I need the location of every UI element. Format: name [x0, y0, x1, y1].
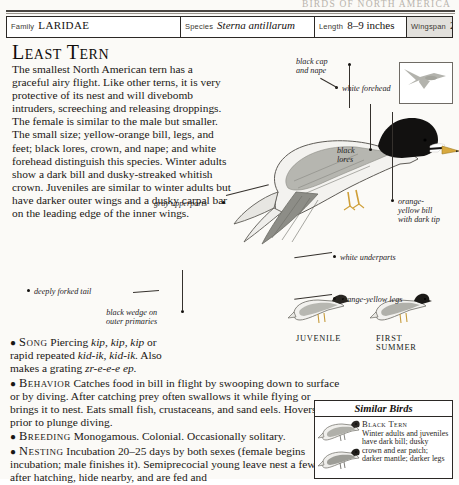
similar-bird-name: Black Tern [362, 419, 407, 429]
bullet-head-behavior: Behavior [19, 376, 71, 390]
header-rule-thin [6, 13, 455, 14]
callout-deeply-forked-tail: deeply forked tail [34, 287, 91, 296]
species-value: Sterna antillarum [217, 19, 295, 31]
bullet-body-breeding: Monogamous. Colonial. Occasionally solit… [74, 430, 286, 442]
info-cell-wingspan: Wingspan 20 inches [407, 17, 452, 37]
similar-bird-description: Winter adults and juveniles have dark bi… [362, 429, 448, 464]
length-value: 8–9 inches [347, 19, 394, 31]
illustration-area: JUVENILE FIRST SUMMER black cap and nape… [232, 42, 459, 332]
similar-birds-body: Black Tern Winter adults and juveniles h… [315, 417, 452, 472]
info-cell-length: Length 8–9 inches [315, 17, 407, 37]
species-label: Species [185, 22, 213, 31]
wingspan-value: 20 inches [450, 19, 452, 31]
bullet-song: ●Song Piercing kip, kip, kip or rapid re… [10, 336, 170, 376]
callout-line-deeply-forked-tail [133, 290, 159, 293]
similar-birds-title: Similar Birds [315, 401, 452, 417]
black-tern-juvenile-icon [318, 448, 360, 472]
species-description: The smallest North American tern has a g… [12, 63, 231, 220]
running-head: BIRDS OF NORTH AMERICA [0, 0, 459, 13]
info-cell-family: Family LARIDAE [7, 17, 181, 37]
callout-line-orange-yellow-bill [392, 112, 393, 200]
callout-line-black-wedge-outer-primaries [182, 270, 183, 311]
bullet-dot-song: ● [10, 337, 16, 348]
family-value: LARIDAE [38, 19, 89, 31]
similar-bird-entry: Black Tern Winter adults and juveniles h… [362, 420, 449, 472]
callout-orange-yellow-legs: orange-yellow legs [340, 295, 403, 304]
callout-dot-white-underparts [333, 255, 336, 258]
bullet-dot-nesting: ● [10, 446, 16, 457]
callout-dot-deeply-forked-tail [27, 289, 30, 292]
song-phrase-1: kip, kip, kip [91, 336, 144, 348]
life-history-bullets: ●Song Piercing kip, kip, kip or rapid re… [10, 336, 340, 485]
info-cell-species: Species Sterna antillarum [181, 17, 315, 37]
bullet-head-song: Song [19, 335, 47, 349]
callout-white-underparts: white underparts [340, 253, 396, 262]
similar-birds-thumbnails [318, 420, 360, 472]
black-tern-winter-adult-icon [318, 420, 360, 444]
page-title: Least Tern [12, 42, 109, 62]
bullet-head-breeding: Breeding [19, 429, 71, 443]
header-rule-thick [6, 10, 455, 12]
callout-black-cap-and-nape: black cap and nape [296, 57, 328, 76]
wingspan-label: Wingspan [411, 22, 446, 31]
callout-black-lores: black lores [337, 146, 355, 164]
callout-line-black-lores [370, 104, 371, 149]
callout-black-wedge-outer-primaries: black wedge on outer primaries [106, 308, 157, 327]
callout-dot-gray-upperparts [222, 201, 225, 204]
running-head-title: BIRDS OF NORTH AMERICA [302, 0, 451, 9]
song-phrase-3: zr-e-e-e ep. [85, 362, 137, 374]
callout-orange-yellow-bill: orange- yellow bill with dark tip [398, 197, 440, 224]
morph-label-first-summer: FIRST SUMMER [376, 334, 417, 352]
bullet-behavior: ●Behavior Catches food in bill in flight… [10, 377, 340, 430]
bullet-head-nesting: Nesting [19, 444, 63, 458]
song-phrase-2: kid-ik, kid-ik. [78, 349, 138, 361]
length-label: Length [319, 22, 343, 31]
similar-birds-box: Similar Birds [314, 400, 453, 479]
bullet-dot-behavior: ● [10, 378, 16, 389]
bullet-dot-breeding: ● [10, 431, 16, 442]
bullet-nesting: ●Nesting Incubation 20–25 days by both s… [10, 445, 340, 485]
callout-gray-upperparts: gray upperparts [154, 199, 207, 208]
family-label: Family [11, 22, 34, 31]
callout-white-forehead: white forehead [342, 84, 391, 93]
species-info-bar: Family LARIDAE Species Sterna antillarum… [6, 16, 453, 38]
bullet-breeding: ●Breeding Monogamous. Colonial. Occasion… [10, 430, 340, 443]
callout-dot-orange-yellow-legs [333, 297, 336, 300]
